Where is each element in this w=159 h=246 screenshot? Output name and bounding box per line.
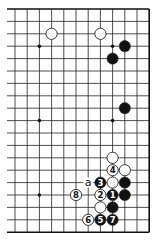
move-number-label: 7 (110, 215, 116, 225)
white-stone (46, 28, 57, 39)
move-number-label: 1 (110, 190, 116, 200)
black-stone (107, 202, 118, 213)
move-number-label: 5 (97, 215, 103, 225)
star-point (111, 119, 115, 123)
star-point (38, 119, 42, 123)
move-number-label: 3 (97, 178, 103, 188)
white-stone (95, 202, 106, 213)
go-board: a 43821657 (0, 0, 159, 246)
star-point (38, 44, 42, 48)
white-stone (107, 152, 118, 163)
black-stone (107, 53, 118, 64)
move-number-label: 4 (110, 165, 116, 175)
marker-label: a (85, 176, 92, 189)
white-stone (119, 165, 130, 176)
black-stone (119, 41, 130, 52)
board-markers: a (83, 176, 93, 189)
white-stone (95, 28, 106, 39)
move-number-label: 8 (73, 190, 79, 200)
star-point (38, 193, 42, 197)
star-point (111, 44, 115, 48)
white-stone (107, 177, 118, 188)
black-stone (119, 189, 130, 200)
black-stone (119, 103, 130, 114)
move-number-label: 6 (85, 215, 91, 225)
move-number-label: 2 (97, 190, 103, 200)
black-stone (119, 177, 130, 188)
